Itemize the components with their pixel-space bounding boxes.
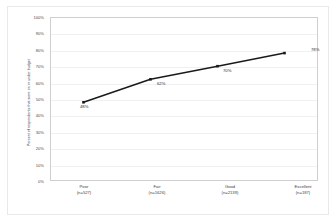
data-label-point-2: 62% (157, 81, 165, 86)
data-point-marker (216, 65, 219, 68)
y-tick-label: 70% (2, 64, 44, 69)
x-tick-count: (n=527) (49, 190, 119, 196)
x-tick-label-poor: Poor (n=527) (49, 184, 119, 196)
y-tick-label: 100% (2, 15, 44, 20)
chart-container: Percent of respondents that were on or u… (0, 0, 336, 222)
x-tick-count: (n=1626) (122, 190, 192, 196)
data-label-point-3: 70% (223, 68, 231, 73)
y-tick-label: 60% (2, 80, 44, 85)
x-axis-tick-labels: Poor (n=527) Fair (n=1626) Good (n=2139)… (50, 184, 318, 214)
y-tick-label: 20% (2, 146, 44, 151)
x-tick-label-excellent: Excellent (n=187) (268, 184, 336, 196)
data-point-marker (149, 78, 152, 81)
y-tick-label: 50% (2, 97, 44, 102)
y-axis-tick-labels: 100% 90% 80% 70% 60% 50% 40% 30% 20% 10%… (0, 17, 47, 181)
data-label-point-1: 48% (80, 104, 88, 109)
data-series-line (50, 17, 318, 181)
y-tick-label: 0% (2, 179, 44, 184)
y-tick-label: 90% (2, 31, 44, 36)
x-tick-count: (n=187) (268, 190, 336, 196)
y-tick-label: 30% (2, 129, 44, 134)
y-tick-label: 10% (2, 162, 44, 167)
data-point-marker (283, 52, 286, 55)
x-tick-count: (n=2139) (195, 190, 265, 196)
y-tick-label: 80% (2, 47, 44, 52)
y-tick-label: 40% (2, 113, 44, 118)
series-polyline (84, 53, 285, 102)
data-label-point-4: 78% (311, 47, 319, 52)
x-tick-label-fair: Fair (n=1626) (122, 184, 192, 196)
x-tick-label-good: Good (n=2139) (195, 184, 265, 196)
